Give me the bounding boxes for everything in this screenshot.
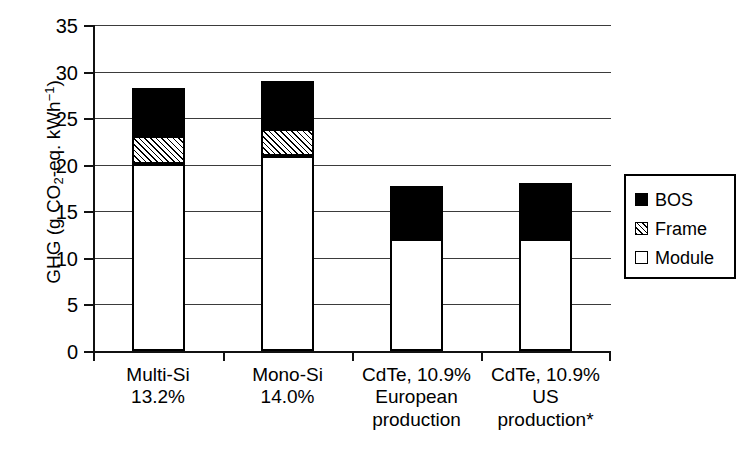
y-tick-mark-20 <box>84 165 93 167</box>
bar-cdte-us[interactable] <box>519 183 572 351</box>
legend-label-module: Module <box>655 249 714 267</box>
legend-label-bos: BOS <box>655 191 693 209</box>
y-tick-label-35: 35 <box>14 16 78 36</box>
bar-multi-si[interactable] <box>132 88 185 351</box>
y-tick-label-10: 10 <box>14 249 78 269</box>
bar-segment-module[interactable] <box>390 239 443 351</box>
legend-item-module[interactable]: Module <box>635 243 734 272</box>
bar-segment-bos[interactable] <box>132 88 185 136</box>
y-axis-title-superscript: −1 <box>42 87 57 102</box>
bar-segment-module[interactable] <box>261 156 314 351</box>
x-tick-mark-1 <box>223 351 225 361</box>
bar-mono-si[interactable] <box>261 81 314 351</box>
legend-swatch-frame-icon <box>635 222 648 235</box>
y-tick-label-0: 0 <box>14 342 78 362</box>
y-tick-mark-35 <box>84 25 93 27</box>
x-category-label-0: Multi-Si 13.2% <box>93 364 223 409</box>
legend-item-bos[interactable]: BOS <box>635 185 734 214</box>
ghg-stacked-bar-chart: GHG (g CO2-eq. kWh−1) 35 30 25 20 15 10 … <box>0 0 746 459</box>
y-tick-mark-0 <box>84 351 93 353</box>
y-tick-mark-10 <box>84 258 93 260</box>
y-tick-mark-5 <box>84 304 93 306</box>
caption-remnant <box>60 448 660 457</box>
x-category-label-2: CdTe, 10.9% European production <box>352 364 481 431</box>
y-tick-label-30: 30 <box>14 63 78 83</box>
x-tick-mark-3 <box>481 351 483 361</box>
legend-item-frame[interactable]: Frame <box>635 214 734 243</box>
bar-segment-bos[interactable] <box>261 81 314 129</box>
x-tick-mark-0 <box>93 351 95 361</box>
bar-segment-bos[interactable] <box>390 186 443 239</box>
x-category-label-3: CdTe, 10.9% US production* <box>481 364 610 431</box>
y-tick-mark-15 <box>84 211 93 213</box>
y-tick-mark-25 <box>84 118 93 120</box>
y-axis-line <box>93 25 95 352</box>
legend-label-frame: Frame <box>655 220 707 238</box>
legend-swatch-bos-icon <box>635 193 648 206</box>
x-category-label-1: Mono-Si 14.0% <box>223 364 352 409</box>
gridline-30 <box>93 72 611 73</box>
y-tick-label-15: 15 <box>14 202 78 222</box>
chart-legend: BOS Frame Module <box>624 174 736 279</box>
y-tick-label-25: 25 <box>14 109 78 129</box>
bar-segment-module[interactable] <box>132 164 185 351</box>
legend-swatch-module-icon <box>635 251 648 264</box>
bar-segment-frame[interactable] <box>132 136 185 164</box>
x-tick-mark-2 <box>352 351 354 361</box>
bar-segment-bos[interactable] <box>519 183 572 239</box>
bar-cdte-eu[interactable] <box>390 186 443 351</box>
y-tick-label-5: 5 <box>14 295 78 315</box>
gridline-35 <box>93 25 611 26</box>
x-tick-mark-4 <box>609 351 611 361</box>
y-axis-title-subscript: 2 <box>51 177 66 184</box>
bar-segment-frame[interactable] <box>261 129 314 156</box>
y-tick-label-20: 20 <box>14 156 78 176</box>
bar-segment-module[interactable] <box>519 239 572 351</box>
y-tick-mark-30 <box>84 72 93 74</box>
